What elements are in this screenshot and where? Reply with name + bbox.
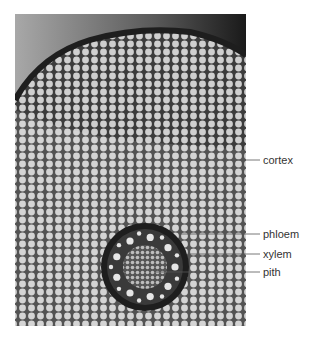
xylem-vessel	[117, 287, 121, 291]
xylem-vessel	[126, 237, 133, 244]
xylem-vessel	[147, 293, 154, 300]
xylem-vessel	[137, 231, 141, 235]
xylem-vessel	[137, 298, 141, 302]
xylem-vessel	[147, 234, 154, 241]
xylem-vessel	[126, 289, 133, 296]
micrograph-photo	[15, 14, 246, 326]
xylem-vessel	[113, 274, 120, 281]
xylem-vessel	[175, 253, 179, 257]
xylem-vessel	[164, 244, 171, 251]
xylem-vessel	[175, 276, 179, 280]
xylem-vessel	[113, 253, 120, 260]
xylem-vessel	[164, 283, 171, 290]
xylem-vessel	[160, 294, 164, 298]
xylem-label: xylem	[263, 248, 292, 260]
xylem-vessel	[109, 265, 113, 269]
phloem-label: phloem	[263, 228, 299, 240]
xylem-vessel	[160, 235, 164, 239]
cortex-label: cortex	[263, 154, 293, 166]
pith-region	[123, 245, 167, 289]
xylem-vessel	[117, 243, 121, 247]
pith-label: pith	[263, 266, 281, 278]
stele	[101, 223, 189, 311]
root-micrograph-figure	[0, 0, 312, 340]
xylem-vessel	[171, 263, 178, 270]
